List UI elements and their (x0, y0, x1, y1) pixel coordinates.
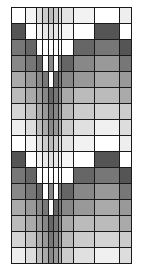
grid-cell (119, 167, 132, 184)
grid-cell (119, 39, 132, 56)
grid-cell (73, 7, 95, 24)
grid-cell (11, 23, 26, 40)
grid-cell (11, 151, 26, 168)
grid-cell (11, 71, 26, 88)
grid-cell (11, 135, 26, 152)
grid-cell (119, 231, 132, 248)
grid-cell (73, 151, 95, 168)
grid-cell (94, 151, 120, 168)
grid-cell (119, 71, 132, 88)
grid-cell (11, 119, 26, 136)
grid-cell (94, 231, 120, 248)
grid-cell (94, 183, 120, 200)
grid-cell (94, 103, 120, 120)
grid-cell (11, 199, 26, 216)
grid-cell (11, 183, 26, 200)
grid-cell (73, 39, 95, 56)
grid-cell (11, 87, 26, 104)
grid-cell (94, 87, 120, 104)
grid-cell (119, 55, 132, 72)
grid-cell (119, 151, 132, 168)
grid-cell (94, 135, 120, 152)
grid-cell (73, 23, 95, 40)
grid-cell (11, 55, 26, 72)
grid-cell (94, 7, 120, 24)
grid-cell (94, 39, 120, 56)
grid-cell (119, 247, 132, 264)
grid-cell (73, 199, 95, 216)
grid-cell (73, 71, 95, 88)
grid-cell (119, 215, 132, 232)
grid-cell (73, 103, 95, 120)
grid-cell (11, 7, 26, 24)
grid-cell (11, 215, 26, 232)
grid-cell (119, 183, 132, 200)
grid-cell (119, 103, 132, 120)
grid-cell (119, 135, 132, 152)
grid-cell (119, 23, 132, 40)
grid-cell (11, 39, 26, 56)
grid-cell (94, 23, 120, 40)
grid-cell (11, 247, 26, 264)
grayscale-grid-diagram (11, 7, 131, 263)
grid-cell (73, 247, 95, 264)
grid-cell (94, 55, 120, 72)
grid-cell (94, 247, 120, 264)
grid-cell (119, 199, 132, 216)
grid-cell (11, 103, 26, 120)
grid-cell (94, 167, 120, 184)
grid-cell (94, 215, 120, 232)
grid-cell (73, 55, 95, 72)
grid-cell (11, 167, 26, 184)
grid-cell (119, 119, 132, 136)
grid-cell (73, 167, 95, 184)
grid-cell (11, 231, 26, 248)
grid-cell (94, 119, 120, 136)
grid-cell (94, 199, 120, 216)
grid-cell (119, 7, 132, 24)
grid-cell (94, 71, 120, 88)
grid-cell (73, 119, 95, 136)
grid-cell (73, 87, 95, 104)
grid-cell (73, 135, 95, 152)
grid-cell (119, 87, 132, 104)
grid-cell (73, 183, 95, 200)
grid-cell (73, 231, 95, 248)
grid-cell (73, 215, 95, 232)
